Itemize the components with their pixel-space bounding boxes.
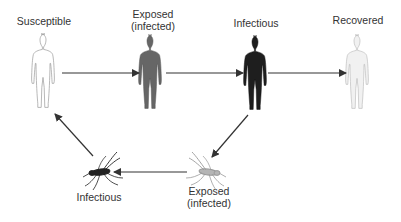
human-exposed-figure (139, 35, 162, 108)
mosquito-infectious-figure (83, 152, 123, 190)
human-infectious-figure (244, 36, 267, 109)
human-susceptible-figure (32, 34, 55, 107)
diagram-canvas (0, 0, 401, 222)
arrow-mosquito-infectious-to-susceptible (55, 114, 93, 156)
mosquito-exposed-figure (186, 152, 226, 190)
arrow-infectious-to-mosquito-exposed (212, 115, 248, 157)
human-recovered-figure (346, 35, 369, 108)
